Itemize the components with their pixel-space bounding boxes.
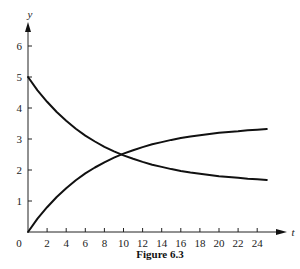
x-axis-arrow-icon <box>276 229 287 235</box>
y-tick-label: 5 <box>17 71 23 83</box>
figure-caption: Figure 6.3 <box>0 248 300 260</box>
tick-labels: 246810121416182022241234560yt <box>16 8 295 249</box>
y-axis-label: y <box>27 8 33 20</box>
y-tick-label: 2 <box>17 164 23 176</box>
increasing-curve <box>28 129 267 232</box>
y-tick-label: 6 <box>17 40 23 52</box>
chart-plot: 246810121416182022241234560yt <box>0 0 300 269</box>
curves <box>28 77 267 232</box>
axes <box>25 22 287 235</box>
y-tick-label: 4 <box>17 102 23 114</box>
decreasing-curve <box>28 77 267 180</box>
y-axis-arrow-icon <box>25 22 31 32</box>
y-tick-label: 3 <box>17 133 23 145</box>
x-axis-label: t <box>291 226 295 238</box>
y-tick-label: 1 <box>17 195 23 207</box>
